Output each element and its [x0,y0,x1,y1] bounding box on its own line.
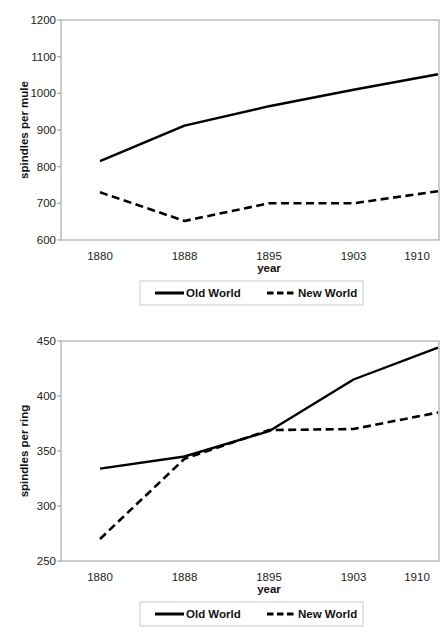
x-tick-label: 1880 [87,250,113,262]
y-tick-label: 450 [37,335,56,347]
legend-label-old-world: Old World [186,608,241,620]
x-tick-label: 1903 [341,250,367,262]
legend-label-old-world: Old World [186,287,241,299]
legend: Old World New World [140,602,363,626]
y-tick-label: 400 [37,390,56,402]
x-tick-label: 1910 [404,571,430,583]
x-axis-title: year [257,583,281,595]
x-tick-label: 1888 [172,571,198,583]
chart-panel-ring: 450 400 350 300 250 spindles per ring 18… [0,320,447,640]
x-tick-label: 1895 [256,250,282,262]
y-tick-label: 800 [37,161,56,173]
y-tick-label: 1000 [30,87,56,99]
y-axis-tick-labels: 450 400 350 300 250 [37,335,56,567]
y-axis-tick-labels: 1200 1100 1000 900 800 700 600 [30,14,56,246]
plot-area-frame [61,341,439,561]
legend: Old World New World [140,281,363,305]
y-axis-title: spindles per ring [18,405,30,498]
legend-label-new-world: New World [298,608,357,620]
x-tick-label: 1888 [172,250,198,262]
y-tick-label: 300 [37,500,56,512]
y-axis-ticks [57,341,61,561]
chart-panel-mule: 1200 1100 1000 900 800 700 600 spindles … [0,0,447,320]
y-tick-label: 350 [37,445,56,457]
y-axis-ticks [57,20,61,240]
x-axis-tick-labels: 1880 1888 1895 1903 1910 [87,250,430,262]
x-tick-label: 1910 [404,250,430,262]
x-tick-label: 1903 [341,571,367,583]
x-axis-title: year [257,262,281,274]
y-tick-label: 1100 [31,51,56,63]
x-axis-tick-labels: 1880 1888 1895 1903 1910 [87,571,430,583]
x-tick-label: 1895 [256,571,282,583]
x-tick-label: 1880 [87,571,113,583]
y-tick-label: 700 [37,197,56,209]
y-tick-label: 900 [37,124,56,136]
mule-chart-svg: 1200 1100 1000 900 800 700 600 spindles … [0,0,447,320]
y-axis-title: spindles per mule [18,81,30,179]
y-tick-label: 250 [37,555,56,567]
y-tick-label: 1200 [30,14,56,26]
y-tick-label: 600 [37,234,56,246]
legend-label-new-world: New World [298,287,357,299]
ring-chart-svg: 450 400 350 300 250 spindles per ring 18… [0,320,447,640]
